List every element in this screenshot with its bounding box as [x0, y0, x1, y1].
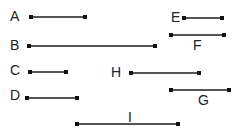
segment-label-d: D — [10, 88, 20, 102]
segment-i — [77, 123, 178, 125]
segment-label-h: H — [111, 65, 121, 79]
segment-c — [30, 71, 66, 73]
endpoint-g-end — [227, 88, 231, 92]
endpoint-b-end — [153, 44, 157, 48]
segment-b — [29, 45, 155, 47]
endpoint-d-end — [75, 96, 79, 100]
segment-label-i: I — [128, 110, 132, 124]
segment-a — [31, 16, 85, 18]
endpoint-e-start — [182, 16, 186, 20]
segment-h — [131, 72, 199, 74]
endpoint-a-end — [83, 15, 87, 19]
endpoint-f-start — [169, 33, 173, 37]
endpoint-h-start — [129, 71, 133, 75]
segment-label-e: E — [171, 10, 180, 24]
segment-label-c: C — [10, 63, 20, 77]
segment-d — [27, 97, 77, 99]
endpoint-f-end — [222, 33, 226, 37]
endpoint-c-start — [28, 70, 32, 74]
segment-g — [171, 89, 229, 91]
segment-e — [184, 17, 222, 19]
endpoint-d-start — [25, 96, 29, 100]
segment-label-f: F — [193, 38, 202, 52]
endpoint-b-start — [27, 44, 31, 48]
segment-f — [171, 34, 224, 36]
endpoint-c-end — [64, 70, 68, 74]
segment-label-b: B — [10, 38, 19, 52]
endpoint-a-start — [29, 15, 33, 19]
line-segments-diagram: ABCDEFGHI — [0, 0, 242, 137]
segment-label-g: G — [198, 93, 209, 107]
endpoint-g-start — [169, 88, 173, 92]
endpoint-i-end — [176, 122, 180, 126]
endpoint-i-start — [75, 122, 79, 126]
segment-label-a: A — [10, 9, 19, 23]
endpoint-e-end — [220, 16, 224, 20]
endpoint-h-end — [197, 71, 201, 75]
